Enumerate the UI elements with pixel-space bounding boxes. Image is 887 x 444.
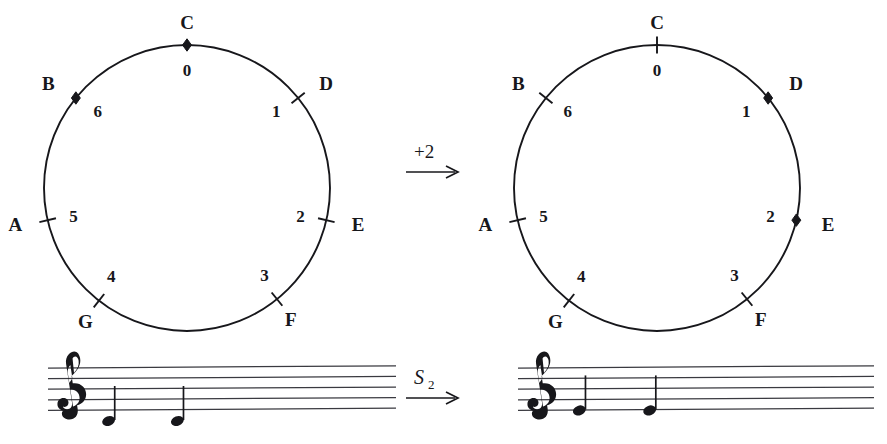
number-label-6-left: 6 xyxy=(93,102,102,121)
staff-line-2 xyxy=(48,376,396,378)
marker-tick-6 xyxy=(539,93,552,104)
number-label-2-left: 2 xyxy=(296,207,305,226)
note-2-left[interactable] xyxy=(170,386,186,428)
circle-position-e-left[interactable]: E2 xyxy=(296,207,364,235)
circle-outline-right xyxy=(514,45,800,331)
circle-outline-left xyxy=(44,45,330,331)
staff-line-5 xyxy=(48,408,396,410)
arrow-label-s: S xyxy=(414,366,424,388)
note-label-f-left: F xyxy=(285,309,297,330)
note-label-e-right: E xyxy=(822,214,835,235)
note-label-e-left: E xyxy=(352,214,365,235)
note-1-right[interactable] xyxy=(572,375,588,417)
number-label-5-left: 5 xyxy=(69,207,78,226)
marker-tick-4 xyxy=(564,294,574,307)
circle-right-marks: C0D1E2F3G4A5B6 xyxy=(478,12,834,332)
staff-line-3 xyxy=(48,387,396,389)
number-label-0-left: 0 xyxy=(183,61,192,80)
note-label-f-right: F xyxy=(755,309,767,330)
circle-position-a-left[interactable]: A5 xyxy=(8,207,77,235)
note-label-a-right: A xyxy=(478,214,492,235)
music-staff-right[interactable] xyxy=(518,352,874,420)
arrow-label-s-subscript: 2 xyxy=(428,377,435,392)
marker-tick-4 xyxy=(94,294,104,307)
treble-clef-icon xyxy=(57,352,86,420)
figure-root: C0D1E2F3G4A5B6 C0D1E2F3G4A5B6 +2 S 2 xyxy=(0,0,887,444)
treble-clef-glyph xyxy=(57,352,86,420)
marker-tick-3 xyxy=(272,293,283,306)
transposition-arrow-plus-2: +2 xyxy=(406,141,458,178)
number-label-4-right: 4 xyxy=(577,267,586,286)
note-label-b-right: B xyxy=(512,73,525,94)
music-staff-left[interactable] xyxy=(48,352,396,428)
note-label-g-right: G xyxy=(548,311,563,332)
staff-line-4 xyxy=(48,398,396,400)
number-label-2-right: 2 xyxy=(766,207,775,226)
marker-diamond-2 xyxy=(792,214,801,226)
note-label-g-left: G xyxy=(78,311,93,332)
note-label-c-left: C xyxy=(180,12,194,33)
circle-position-e-right[interactable]: E2 xyxy=(766,207,834,235)
pitch-class-circle-right[interactable]: C0D1E2F3G4A5B6 xyxy=(478,12,834,332)
arrow-label-plus-2: +2 xyxy=(414,141,434,162)
staff-line-1 xyxy=(518,366,874,368)
number-label-1-left: 1 xyxy=(272,102,281,121)
staff-transform-arrow-s2: S 2 xyxy=(406,366,458,404)
circle-left-marks: C0D1E2F3G4A5B6 xyxy=(8,12,364,332)
circle-position-a-right[interactable]: A5 xyxy=(478,207,547,235)
note-2-right[interactable] xyxy=(642,375,658,417)
note-label-d-right: D xyxy=(789,73,803,94)
number-label-1-right: 1 xyxy=(742,102,751,121)
marker-tick-1 xyxy=(292,93,305,104)
note-label-a-left: A xyxy=(8,214,22,235)
note-label-b-left: B xyxy=(42,73,55,94)
marker-diamond-0 xyxy=(183,39,192,51)
number-label-3-right: 3 xyxy=(730,266,739,285)
marker-tick-3 xyxy=(742,293,753,306)
number-label-6-right: 6 xyxy=(563,102,572,121)
note-label-c-right: C xyxy=(650,12,664,33)
treble-clef-glyph xyxy=(527,352,556,420)
number-label-0-right: 0 xyxy=(653,61,662,80)
pitch-class-circle-left[interactable]: C0D1E2F3G4A5B6 xyxy=(8,12,364,332)
staff-line-2 xyxy=(518,376,874,378)
staff-line-3 xyxy=(518,387,874,389)
note-label-d-left: D xyxy=(319,73,333,94)
diagram-canvas: C0D1E2F3G4A5B6 C0D1E2F3G4A5B6 +2 S 2 xyxy=(0,0,887,444)
staff-line-1 xyxy=(48,366,396,368)
staff-line-4 xyxy=(518,398,874,400)
number-label-4-left: 4 xyxy=(107,267,116,286)
staff-line-5 xyxy=(518,408,874,410)
treble-clef-icon xyxy=(527,352,556,420)
number-label-3-left: 3 xyxy=(260,266,269,285)
number-label-5-right: 5 xyxy=(539,207,548,226)
note-1-left[interactable] xyxy=(101,386,117,428)
